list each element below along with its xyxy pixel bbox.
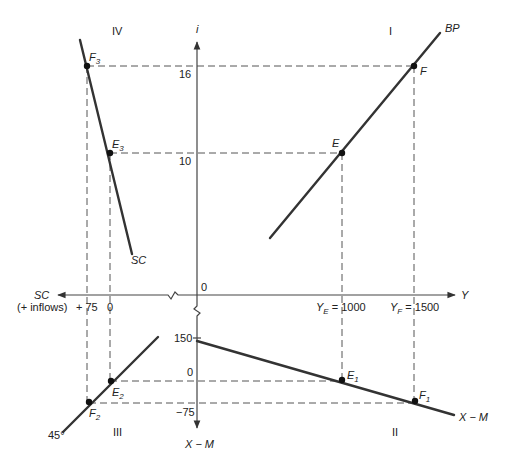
tick-sc-0: 0: [107, 301, 113, 313]
sc-axis-label: SC: [34, 289, 49, 301]
quadrant-i-label: I: [389, 25, 392, 37]
label-f1: F1: [419, 389, 430, 404]
point-e3: [107, 150, 113, 156]
tick-ye: YE = 1000: [316, 301, 366, 316]
point-e1: [339, 377, 345, 383]
i-axis-label: i: [196, 23, 199, 35]
tick-i-16: 16: [179, 68, 191, 80]
tick-xm-0: 0: [187, 366, 193, 378]
point-f: [411, 63, 417, 69]
label-e2: E2: [112, 386, 124, 401]
xm-axis: [194, 295, 200, 428]
quadrant-iv-label: IV: [112, 25, 123, 37]
axes: [58, 42, 455, 428]
point-e2: [108, 378, 114, 384]
four-quadrant-diagram: IV I III II i X − M Y SC (+ inflows) 0 1…: [0, 0, 507, 458]
quadrant-ii-label: II: [392, 426, 398, 438]
label-f2: F2: [89, 407, 101, 422]
sc-axis: [58, 292, 197, 299]
label-f: F: [420, 65, 428, 77]
quadrant-iii-label: III: [113, 426, 122, 438]
y-axis-label: Y: [461, 289, 469, 301]
point-e: [339, 150, 345, 156]
points: [84, 63, 418, 405]
label-e3: E3: [112, 138, 124, 153]
guide-lines: [87, 66, 414, 403]
tick-sc-75: + 75: [76, 301, 98, 313]
sc-axis-note: (+ inflows): [17, 301, 67, 313]
label-f3: F3: [89, 51, 101, 66]
bp-label: BP: [445, 22, 460, 34]
point-f2: [86, 399, 92, 405]
point-f1: [412, 398, 418, 404]
sc-curve: [80, 40, 132, 254]
tick-xm-150: 150: [174, 332, 192, 344]
sc-curve-label: SC: [131, 254, 146, 266]
point-f3: [84, 63, 90, 69]
tick-xm-neg75: −75: [176, 406, 195, 418]
xm-axis-label: X − M: [184, 438, 215, 450]
origin-label: 0: [201, 281, 207, 293]
curves: [63, 33, 454, 432]
xm-curve-label: X − M: [458, 411, 489, 423]
tick-i-10: 10: [179, 155, 191, 167]
label-e: E: [332, 137, 340, 149]
tick-yf: YF = 1500: [390, 301, 439, 316]
line-45-label: 45°: [48, 429, 65, 441]
label-e1: E1: [347, 369, 359, 384]
